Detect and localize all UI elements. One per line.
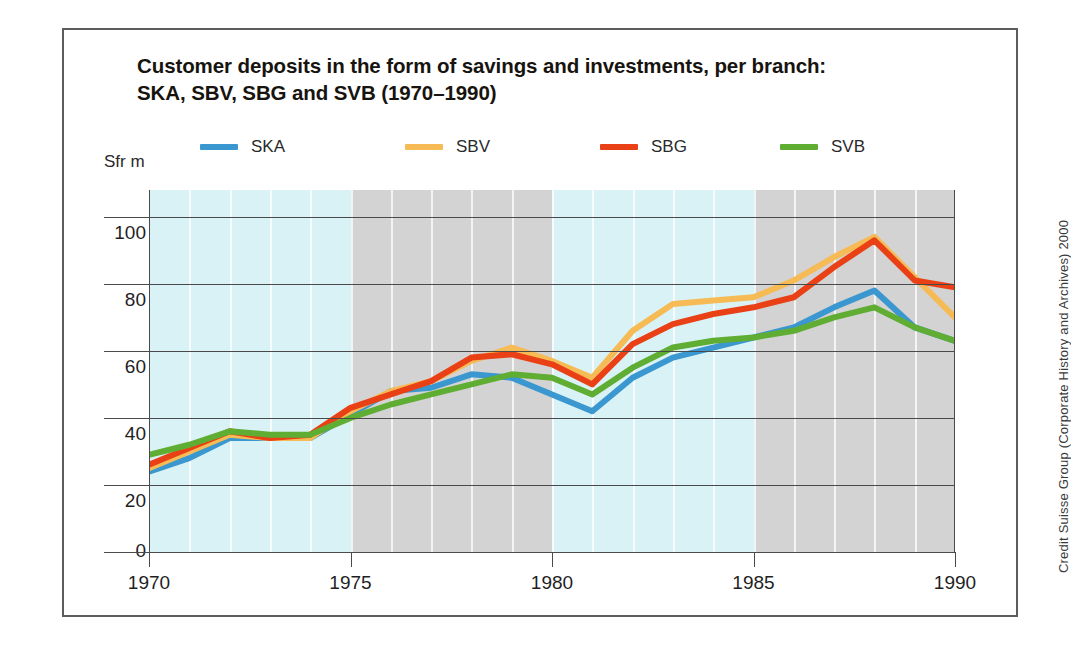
plot-border-left bbox=[149, 190, 150, 552]
x-tick-1975 bbox=[351, 552, 352, 567]
gridline-20 bbox=[149, 485, 955, 486]
legend-swatch-svb-icon bbox=[780, 144, 818, 150]
legend-item-sbg[interactable]: SBG bbox=[600, 134, 687, 160]
y-tick-label-20: 20 bbox=[104, 490, 146, 512]
y-tick-label-40: 40 bbox=[104, 423, 146, 445]
legend-label: SBG bbox=[651, 137, 687, 157]
gridline-100 bbox=[149, 217, 955, 218]
y-axis-unit-label: Sfr m bbox=[104, 152, 145, 172]
legend-swatch-sbv-icon bbox=[405, 144, 443, 150]
legend-label: SKA bbox=[251, 137, 285, 157]
y-tick-label-0: 0 bbox=[104, 540, 146, 562]
gutter-rule-80 bbox=[104, 284, 150, 285]
title-line-1: Customer deposits in the form of savings… bbox=[137, 52, 897, 79]
x-tick-label-1980: 1980 bbox=[531, 572, 573, 594]
legend-item-sbv[interactable]: SBV bbox=[405, 134, 490, 160]
gutter-rule-0 bbox=[104, 552, 150, 553]
plot-border-right bbox=[954, 190, 955, 552]
legend-item-ska[interactable]: SKA bbox=[200, 134, 285, 160]
x-tick-1970 bbox=[149, 552, 150, 567]
page-title: Customer deposits in the form of savings… bbox=[137, 52, 897, 106]
series-line-svb bbox=[149, 307, 955, 454]
gutter-rule-40 bbox=[104, 418, 150, 419]
plot-area bbox=[149, 190, 955, 552]
series-line-sbg bbox=[149, 240, 955, 465]
x-tick-1985 bbox=[754, 552, 755, 567]
x-tick-label-1975: 1975 bbox=[329, 572, 371, 594]
legend-label: SVB bbox=[831, 137, 865, 157]
x-tick-label-1970: 1970 bbox=[128, 572, 170, 594]
x-tick-label-1985: 1985 bbox=[732, 572, 774, 594]
gridline-80 bbox=[149, 284, 955, 285]
series-lines bbox=[149, 190, 955, 552]
chart-legend: SKASBVSBGSVB bbox=[200, 134, 840, 160]
x-tick-1990 bbox=[955, 552, 956, 567]
gridline-60 bbox=[149, 351, 955, 352]
title-line-2: SKA, SBV, SBG and SVB (1970–1990) bbox=[137, 79, 897, 106]
y-tick-label-60: 60 bbox=[104, 356, 146, 378]
legend-item-svb[interactable]: SVB bbox=[780, 134, 865, 160]
y-tick-label-100: 100 bbox=[104, 222, 146, 244]
gutter-rule-100 bbox=[104, 217, 150, 218]
gridline-40 bbox=[149, 418, 955, 419]
y-tick-label-80: 80 bbox=[104, 289, 146, 311]
legend-swatch-ska-icon bbox=[200, 144, 238, 150]
x-tick-label-1990: 1990 bbox=[934, 572, 976, 594]
chart-page: Customer deposits in the form of savings… bbox=[0, 0, 1079, 652]
gutter-rule-60 bbox=[104, 351, 150, 352]
credit-attribution: Credit Suisse Group (Corporate History a… bbox=[1056, 178, 1071, 573]
legend-label: SBV bbox=[456, 137, 490, 157]
x-tick-1980 bbox=[552, 552, 553, 567]
gutter-rule-20 bbox=[104, 485, 150, 486]
legend-swatch-sbg-icon bbox=[600, 144, 638, 150]
